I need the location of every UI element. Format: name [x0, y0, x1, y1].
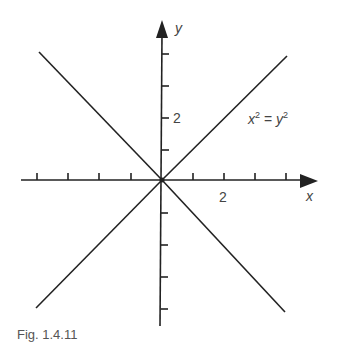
- figure-caption: Fig. 1.4.11: [17, 327, 77, 342]
- x-axis-label: x: [306, 188, 313, 204]
- line-y-neg-x: [39, 52, 162, 180]
- x-arrow-icon: [300, 174, 318, 188]
- equation-label: x2 = y2: [248, 110, 288, 127]
- y-arrow-icon: [156, 20, 168, 38]
- y-axis-label: y: [175, 20, 182, 36]
- y-tick-label: 2: [173, 110, 181, 126]
- x-tick-label: 2: [219, 189, 227, 205]
- graph: [0, 0, 338, 351]
